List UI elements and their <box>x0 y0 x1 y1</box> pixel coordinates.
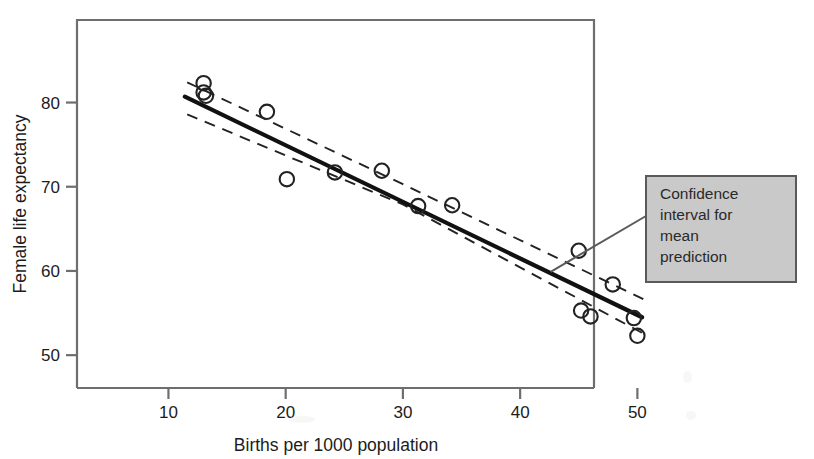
annotation-leader-line <box>551 216 646 272</box>
annotation-line-4: prediction <box>660 248 727 265</box>
x-tick-label: 40 <box>511 403 530 422</box>
y-tick-label: 60 <box>41 262 60 281</box>
figure-root: 1020304050 50607080 Births per 1000 popu… <box>0 0 814 459</box>
x-tick-label: 20 <box>276 403 295 422</box>
x-tick-label: 50 <box>628 403 647 422</box>
y-axis-title: Female life expectancy <box>10 114 30 293</box>
x-axis-title: Births per 1000 population <box>234 435 438 455</box>
y-axis-tick-labels: 50607080 <box>41 94 60 366</box>
y-tick-label: 50 <box>41 346 60 365</box>
plot-frame <box>77 20 594 388</box>
annotation-line-1: Confidence <box>660 185 738 202</box>
confidence-band-lower <box>187 114 644 334</box>
annotation-line-2: interval for <box>660 206 732 223</box>
scatter-plot: 1020304050 50607080 Births per 1000 popu… <box>0 0 814 459</box>
x-tick-label: 10 <box>159 403 178 422</box>
regression-line <box>185 97 642 318</box>
data-point <box>375 164 389 178</box>
data-point <box>606 277 620 291</box>
annotation-box: Confidence interval for mean prediction <box>646 176 796 282</box>
data-point <box>260 105 274 119</box>
y-axis-ticks <box>66 103 77 356</box>
x-axis-tick-labels: 1020304050 <box>159 403 647 422</box>
annotation-line-3: mean <box>660 227 699 244</box>
confidence-band-upper <box>187 82 644 299</box>
x-axis-ticks <box>168 388 637 399</box>
y-tick-label: 80 <box>41 94 60 113</box>
data-point <box>280 172 294 186</box>
y-tick-label: 70 <box>41 178 60 197</box>
x-tick-label: 30 <box>393 403 412 422</box>
